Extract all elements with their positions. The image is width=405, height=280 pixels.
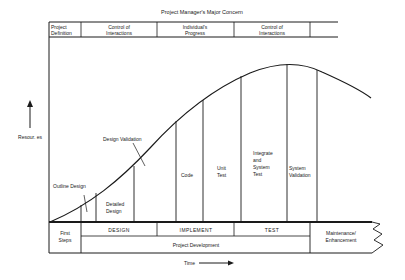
phase-design: DESIGN [108,227,130,233]
svg-text:Control of: Control of [108,24,130,30]
label-system-validation-1: System [289,165,306,171]
y-axis-arrow-icon [27,100,33,128]
activity-dividers [81,64,317,222]
break-zigzag-icon [372,222,383,253]
svg-text:Project: Project [51,24,67,30]
label-first-steps-2: Steps [59,237,72,243]
label-unit-test-1: Unit [217,165,227,171]
svg-text:Interactions: Interactions [106,30,132,36]
label-first-steps-1: First [60,230,70,236]
label-outline-design: Outline Design [53,183,86,189]
svg-text:Definition: Definition [51,30,72,36]
label-integrate-3: System [253,164,270,170]
y-axis-label: Resour. es [18,134,42,140]
label-project-development: Project Development [173,242,220,248]
label-unit-test-2: Test [217,172,227,178]
label-integrate-2: and [253,157,262,163]
top-table-cell-control-of-interactions-2: Control of Interactions [259,24,285,37]
label-system-validation-2: Validation [289,172,311,178]
x-axis-arrow-icon [199,261,234,266]
label-code: Code [181,172,193,178]
label-detailed-design-1: Detailed [106,201,125,207]
label-design-validation: Design Validation [103,136,142,142]
label-detailed-design-2: Design [106,208,122,214]
svg-text:Individual's: Individual's [183,24,208,30]
label-maintenance-2: Enhancement [326,237,357,243]
svg-text:Progress: Progress [185,30,206,36]
label-integrate-1: Integrate [253,150,273,156]
top-table-cell-control-of-interactions-1: Control of Interactions [106,24,132,37]
top-table-cell-project-definition: Project Definition [51,24,72,37]
label-maintenance-1: Maintenance/ [326,230,357,236]
svg-text:Interactions: Interactions [259,30,285,36]
top-table-cell-individuals-progress: Individual's Progress [183,24,208,37]
diagram-title: Project Manager's Major Concern [161,9,243,15]
phase-test: TEST [265,227,279,233]
phase-implement: IMPLEMENT [180,227,213,233]
resource-curve [50,65,371,222]
resource-curve-diagram: Project Manager's Major Concern Project … [0,0,405,280]
svg-text:Control of: Control of [261,24,283,30]
label-integrate-4: Test [253,171,263,177]
x-axis-label: Time [184,260,195,266]
